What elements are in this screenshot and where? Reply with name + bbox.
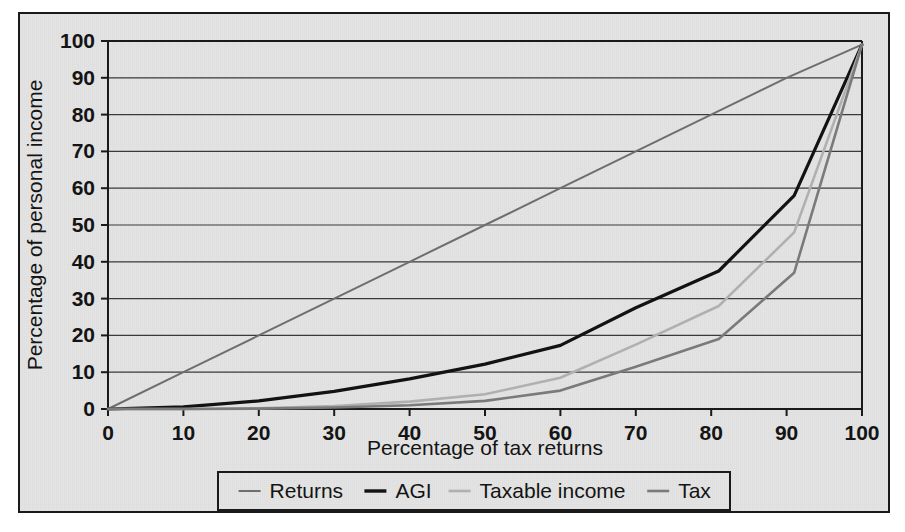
y-tick-label: 70 (72, 139, 95, 162)
y-axis-title: Percentage of personal income (23, 80, 46, 371)
y-tick-label: 90 (72, 66, 95, 89)
series-line-returns (108, 45, 862, 409)
legend-item-agi[interactable]: AGI (364, 479, 431, 502)
legend-item-returns[interactable]: Returns (239, 479, 344, 502)
y-tick-label: 30 (72, 287, 95, 310)
x-tick-label: 100 (844, 421, 879, 444)
x-axis-title: Percentage of tax returns (367, 436, 603, 459)
y-tick-label: 50 (72, 213, 95, 236)
gridlines-group (108, 41, 862, 372)
legend-item-taxable-income[interactable]: Taxable income (449, 479, 626, 502)
y-tick-label: 10 (72, 360, 95, 383)
legend: ReturnsAGITaxable incomeTax (218, 472, 730, 510)
y-tick-label: 40 (72, 250, 95, 273)
x-tick-label: 80 (700, 421, 723, 444)
y-tick-label: 0 (83, 397, 95, 420)
x-tick-label: 10 (172, 421, 195, 444)
legend-label: Tax (678, 479, 711, 502)
y-tick-label: 100 (60, 29, 95, 52)
legend-label: Taxable income (480, 479, 626, 502)
lorenz-curve-chart: 0102030405060708090100 01020304050607080… (0, 0, 905, 532)
x-tick-label: 70 (624, 421, 647, 444)
chart-figure: 0102030405060708090100 01020304050607080… (0, 0, 905, 532)
legend-item-tax[interactable]: Tax (647, 479, 711, 502)
legend-label: Returns (270, 479, 344, 502)
x-tick-label: 0 (102, 421, 114, 444)
x-tick-label: 30 (323, 421, 346, 444)
y-tick-label: 80 (72, 103, 95, 126)
y-tick-labels-group: 0102030405060708090100 (60, 29, 95, 420)
x-tick-label: 20 (247, 421, 270, 444)
x-tick-label: 90 (775, 421, 798, 444)
data-series-group (108, 45, 862, 409)
y-tick-label: 60 (72, 176, 95, 199)
y-tick-label: 20 (72, 323, 95, 346)
legend-label: AGI (395, 479, 431, 502)
